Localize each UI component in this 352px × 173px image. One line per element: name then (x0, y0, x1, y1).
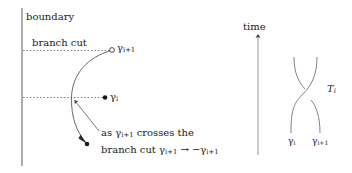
gamma-subscript: i+1 (317, 139, 328, 146)
endpoint-middle-label: γi (110, 92, 118, 103)
arc-direction-arrowhead (79, 135, 87, 144)
endpoint-filled-dot-lower (85, 142, 90, 147)
caption-suffix: crosses the (133, 127, 193, 138)
gamma-subscript: i (116, 95, 118, 103)
caption-line-2: branch cut γi+1 → −γi+1 (101, 145, 219, 156)
figure-root: boundary branch cut γi+1 γi as γi+1 cros… (0, 0, 352, 173)
gamma-subscript: i+1 (165, 148, 177, 156)
T-subscript: i (334, 87, 336, 95)
gamma-subscript: i+1 (121, 131, 133, 139)
endpoint-open-circle (110, 48, 115, 53)
arrow-symbol: → − (177, 144, 200, 155)
branch-cut-label: branch cut (32, 38, 87, 48)
boundary-label: boundary (26, 12, 74, 22)
caption-line-1: as γi+1 crosses the (101, 128, 194, 139)
caption-prefix: branch cut (101, 144, 159, 155)
braid-strand-left-label: γi (288, 137, 295, 146)
braid-strand-right-lower (311, 100, 320, 133)
gamma-subscript: i (293, 139, 295, 146)
braid-strand-right-upper (294, 57, 305, 89)
endpoint-filled-dot-middle (103, 95, 108, 100)
gamma-subscript: i+1 (206, 148, 218, 156)
braid-generator-label: Ti (327, 84, 336, 95)
T-symbol: T (327, 83, 334, 94)
caption-pointer-line (76, 102, 100, 132)
braid-strand-right-label: γi+1 (312, 137, 328, 146)
time-axis-label: time (243, 22, 266, 32)
endpoint-upper-label: γi+1 (117, 43, 135, 54)
gamma-subscript: i+1 (123, 46, 135, 54)
caption-prefix: as (101, 127, 115, 138)
